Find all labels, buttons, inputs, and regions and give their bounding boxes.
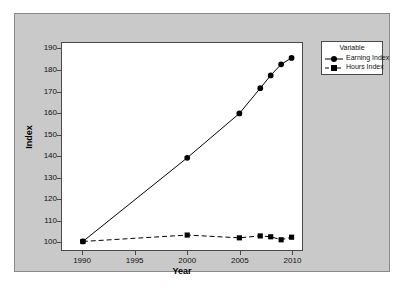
y-tick-label: 120: [23, 195, 57, 203]
x-tick-label: 1990: [73, 256, 91, 265]
series-1: [80, 55, 294, 244]
data-point: [184, 155, 190, 161]
data-point: [237, 235, 242, 240]
x-axis-title: Year: [61, 266, 303, 276]
data-point: [185, 232, 190, 237]
legend: Variable Earning IndexHours Index: [321, 41, 383, 75]
data-point: [80, 239, 85, 244]
legend-item-label: Hours Index: [346, 63, 384, 71]
y-tick-label: 130: [23, 174, 57, 182]
x-tick-label: 2000: [178, 256, 196, 265]
data-point: [258, 233, 263, 238]
legend-item-label: Earning Index: [346, 54, 389, 62]
x-tick-label: 1995: [126, 256, 144, 265]
legend-title: Variable: [325, 44, 379, 52]
x-axis-tick-labels: 19901995200020052010: [61, 253, 303, 267]
data-point: [279, 237, 284, 242]
plot-area: [61, 42, 303, 251]
y-tick-label: 190: [23, 44, 57, 52]
data-point: [289, 235, 294, 240]
legend-item: Hours Index: [325, 63, 379, 71]
y-tick-label: 100: [23, 238, 57, 246]
y-tick-label: 180: [23, 66, 57, 74]
y-axis-title: Index: [24, 107, 34, 167]
x-tick-label: 2005: [231, 256, 249, 265]
square-marker-icon: [325, 63, 343, 71]
x-tick-label: 2010: [284, 256, 302, 265]
figure-panel: 100110120130140150160170180190 199019952…: [14, 13, 390, 272]
data-point: [278, 61, 284, 67]
data-point: [257, 85, 263, 91]
y-tick-label: 170: [23, 88, 57, 96]
circle-marker-icon: [325, 54, 343, 62]
data-point: [289, 55, 295, 61]
series-lines: [62, 43, 302, 250]
legend-items: Earning IndexHours Index: [325, 54, 379, 71]
data-point: [268, 234, 273, 239]
y-tick-label: 110: [23, 217, 57, 225]
legend-item: Earning Index: [325, 54, 379, 62]
series-2: [80, 232, 294, 244]
plot-canvas: [62, 43, 302, 250]
data-point: [237, 111, 243, 117]
data-point: [268, 73, 274, 79]
